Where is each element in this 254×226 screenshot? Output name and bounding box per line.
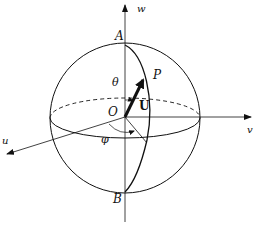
phi-arc <box>109 124 134 132</box>
point-a-label: A <box>114 29 124 43</box>
projection-line <box>125 117 147 143</box>
w-axis-label: w <box>137 3 146 14</box>
meridian <box>125 45 150 192</box>
theta-label: θ <box>112 76 119 89</box>
phi-label: φ <box>101 133 109 146</box>
sphere-diagram: w v u A B O P U θ φ <box>0 0 254 226</box>
origin-label: O <box>108 105 118 119</box>
v-axis-label: v <box>247 124 253 135</box>
u-vector-label: U <box>139 99 150 113</box>
u-axis-label: u <box>2 135 8 146</box>
point-p-label: P <box>152 68 162 82</box>
point-b-label: B <box>112 192 122 206</box>
